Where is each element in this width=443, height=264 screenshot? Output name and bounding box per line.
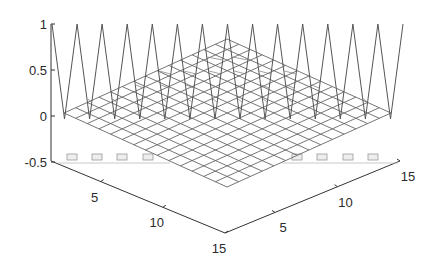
floor-marker [117,154,127,160]
mesh-grid [64,39,391,187]
y-tick-label: 10 [338,195,352,210]
y-tick-label: 5 [279,220,286,235]
y-tick [335,185,338,187]
spike-rung [234,71,246,74]
x-tick-label: 10 [150,215,164,230]
x-ticks: 51015 [91,180,228,256]
surface-plot: -0.500.51 51015 51015 [0,0,443,264]
y-axis-line [225,161,400,233]
z-tick-label: 0 [40,109,47,124]
spike-rung [238,99,242,102]
x-tick [101,180,104,182]
y-ticks: 51015 [272,159,415,235]
spike-rung [188,99,192,102]
floor-marker [67,154,77,160]
x-axis-line [51,161,225,233]
y-tick [272,210,275,212]
spike-rung [213,99,217,102]
spike-rung [161,85,169,88]
y-tick [397,159,400,161]
z-tick-label: 1 [40,17,47,32]
z-tick-label: 0.5 [29,63,47,78]
z-ticks: -0.500.51 [25,17,55,170]
x-tick-label: 15 [212,241,226,256]
floor-marker [368,154,378,160]
floor-marker [92,154,102,160]
z-tick-label: -0.5 [25,155,47,170]
floor-marker [143,154,153,160]
spike-rung [311,85,319,88]
y-tick-label: 15 [401,169,415,184]
floor-marker [317,154,327,160]
floor-marker [343,154,353,160]
x-tick [163,205,166,207]
x-tick-label: 5 [91,190,98,205]
